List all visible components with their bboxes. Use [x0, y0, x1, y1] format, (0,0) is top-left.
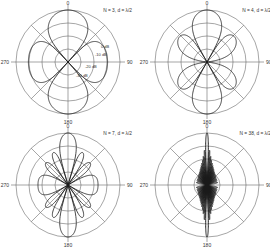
polar-plot-2: 090180270N = 4, d = λ/2	[140, 0, 270, 125]
plot-title: N = 38, d = λ/2	[240, 131, 270, 136]
angle-label-270: 270	[1, 182, 10, 188]
plot-title: N = 3, d = λ/2	[103, 8, 132, 13]
angle-label-270: 270	[1, 59, 10, 65]
angle-label-270: 270	[140, 182, 149, 188]
plot-title: N = 4, d = λ/2	[242, 8, 270, 13]
angle-label-180: 180	[64, 242, 73, 247]
db-label: -10 dB	[95, 52, 107, 57]
db-label: -20 dB	[85, 64, 97, 69]
angle-label-90: 90	[266, 182, 270, 188]
angle-label-90: 90	[127, 182, 133, 188]
angle-label-0: 0	[67, 123, 70, 129]
polar-plot-1: 090180270N = 3, d = λ/20 dB-10 dB-20 dB-…	[1, 0, 133, 125]
angle-label-0: 0	[206, 0, 209, 6]
angle-label-90: 90	[127, 59, 133, 65]
angle-label-0: 0	[206, 123, 209, 129]
angle-label-180: 180	[203, 242, 212, 247]
angle-label-90: 90	[266, 59, 270, 65]
polar-plot-4: 090180270N = 38, d = λ/2	[140, 123, 270, 247]
plot-title: N = 7, d = λ/2	[103, 131, 132, 136]
polar-plots: 090180270N = 3, d = λ/20 dB-10 dB-20 dB-…	[0, 0, 270, 247]
angle-label-0: 0	[67, 0, 70, 6]
polar-plot-3: 090180270N = 7, d = λ/2	[1, 123, 133, 247]
angle-label-270: 270	[140, 59, 149, 65]
